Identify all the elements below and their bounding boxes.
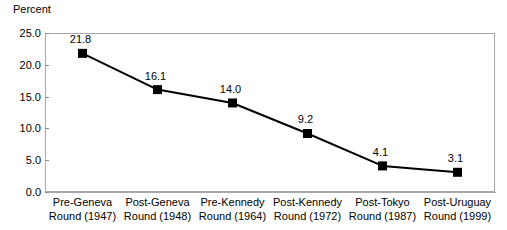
- data-point-value-label: 21.8: [61, 34, 101, 45]
- category-label-line: Round (1964): [195, 209, 270, 223]
- data-point-marker: [78, 49, 87, 58]
- x-axis-category-label: Post-KennedyRound (1972): [270, 195, 345, 229]
- y-axis-tick-mark: [45, 192, 49, 193]
- category-label-line: Pre-Geneva: [45, 195, 120, 209]
- x-axis-category-label: Post-UruguayRound (1999): [420, 195, 495, 229]
- data-point-value-label: 4.1: [361, 147, 401, 158]
- data-point-value-label: 9.2: [286, 114, 326, 125]
- category-label-line: Pre-Kennedy: [195, 195, 270, 209]
- y-axis-tick-mark: [45, 128, 49, 129]
- category-label-line: Round (1947): [45, 209, 120, 223]
- category-label-line: Round (1948): [120, 209, 195, 223]
- y-axis-tick-mark: [45, 160, 49, 161]
- category-label-line: Round (1972): [270, 209, 345, 223]
- y-axis-tick-mark: [45, 97, 49, 98]
- y-axis-tick-mark: [45, 33, 49, 34]
- y-axis-tick-mark: [45, 65, 49, 66]
- x-axis-category-label: Post-TokyoRound (1987): [345, 195, 420, 229]
- data-point-value-label: 14.0: [211, 84, 251, 95]
- x-axis-category-label: Post-GenevaRound (1948): [120, 195, 195, 229]
- chart-figure: Percent 0.05.010.015.020.025.0 21.816.11…: [0, 0, 507, 230]
- category-label-line: Round (1999): [420, 209, 495, 223]
- data-point-value-label: 16.1: [136, 71, 176, 82]
- category-label-line: Round (1987): [345, 209, 420, 223]
- category-label-line: Post-Uruguay: [420, 195, 495, 209]
- data-point-marker: [378, 161, 387, 170]
- data-point-marker: [153, 85, 162, 94]
- x-axis-category-labels: Pre-GenevaRound (1947)Post-GenevaRound (…: [45, 195, 495, 229]
- data-point-marker: [453, 168, 462, 177]
- data-point-marker: [228, 98, 237, 107]
- category-label-line: Post-Kennedy: [270, 195, 345, 209]
- category-label-line: Post-Tokyo: [345, 195, 420, 209]
- data-point-marker: [303, 129, 312, 138]
- x-axis-category-label: Pre-GenevaRound (1947): [45, 195, 120, 229]
- x-axis-category-label: Pre-KennedyRound (1964): [195, 195, 270, 229]
- data-point-value-label: 3.1: [436, 153, 476, 164]
- category-label-line: Post-Geneva: [120, 195, 195, 209]
